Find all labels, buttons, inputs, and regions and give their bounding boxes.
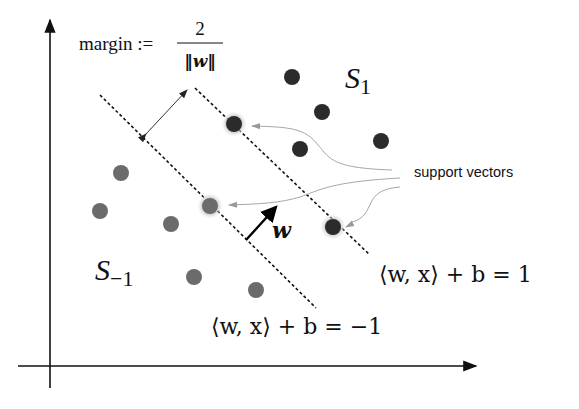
svm-diagram: margin := 2 ‖w‖ S1 S−1 w support vectors… — [0, 0, 579, 409]
negative-point — [248, 282, 264, 298]
positive-point — [373, 133, 389, 149]
negative-point — [163, 216, 179, 232]
margin-numerator: 2 — [195, 18, 205, 39]
support-vectors-label: support vectors — [414, 164, 513, 180]
upper-hyperplane-equation: ⟨w, x⟩ + b = 1 — [379, 262, 532, 287]
lower-hyperplane-equation: ⟨w, x⟩ + b = −1 — [211, 314, 382, 339]
normal-vector-label: w — [272, 217, 292, 243]
positive-support-vector — [325, 219, 341, 235]
positive-support-vector — [226, 116, 242, 132]
positive-point — [292, 141, 308, 157]
margin-arrow — [146, 90, 187, 134]
negative-class-label: S−1 — [95, 253, 133, 291]
negative-point — [186, 269, 202, 285]
positive-class-label: S1 — [345, 61, 371, 99]
positive-point — [314, 104, 330, 120]
negative-point — [113, 165, 129, 181]
negative-support-vector — [202, 198, 218, 214]
margin-formula: margin := 2 ‖w‖ — [79, 18, 223, 71]
negative-point — [92, 203, 108, 219]
margin-denominator: ‖w‖ — [184, 51, 216, 71]
margin-label-prefix: margin := — [79, 33, 153, 54]
positive-point — [284, 69, 300, 85]
